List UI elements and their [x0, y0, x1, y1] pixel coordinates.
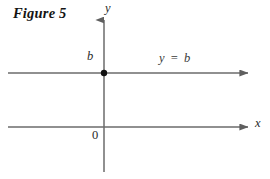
coordinate-plane-graphic [0, 0, 270, 179]
origin-label: 0 [92, 129, 98, 142]
line-equation-label: y = b [159, 52, 191, 65]
figure-caption: Figure 5 [13, 6, 67, 21]
x-axis-label: x [255, 117, 261, 130]
figure-container: Figure 5 y x 0 b y = b [0, 0, 270, 179]
y-axis-label: y [105, 2, 111, 15]
y-intercept-point [101, 70, 107, 76]
y-intercept-label: b [87, 50, 93, 63]
